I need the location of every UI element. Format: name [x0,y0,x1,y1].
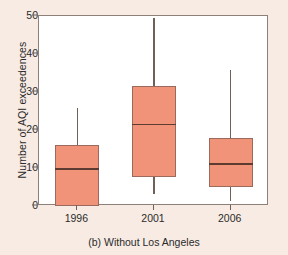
x-tick-label-2001: 2001 [123,212,183,224]
figure-caption: (b) Without Los Angeles [0,236,288,248]
box-plot-2006 [209,16,253,204]
median-line [209,163,253,165]
box-plot-1996 [55,16,99,204]
y-tick-mark [32,205,37,206]
y-tick-mark [32,53,37,54]
box-rect [209,138,253,187]
box-plot-2001 [132,16,176,204]
figure-boxplot-aqi-exceedences: Number of AQI exceedences 01020304050 19… [0,0,288,255]
plot-inner [39,16,267,204]
median-line [132,124,176,126]
x-tick-label-1996: 1996 [46,212,106,224]
x-tick-mark [230,205,231,210]
y-tick-mark [32,15,37,16]
x-tick-label-2006: 2006 [200,212,260,224]
y-tick-mark [32,91,37,92]
x-tick-mark [76,205,77,210]
y-tick-mark [32,129,37,130]
x-tick-mark [153,205,154,210]
plot-area [38,15,268,205]
y-axis-ticks: 01020304050 [4,0,38,255]
median-line [55,168,99,170]
box-rect [132,86,176,177]
y-tick-mark [32,167,37,168]
box-rect [55,145,99,206]
